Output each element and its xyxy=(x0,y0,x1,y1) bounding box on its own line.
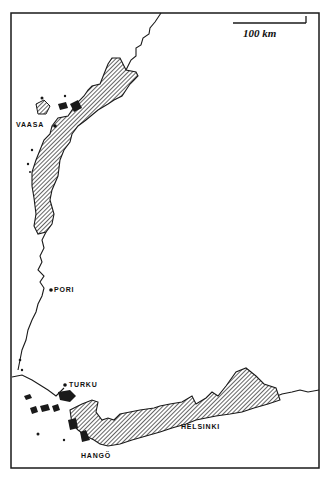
coastline xyxy=(12,13,319,402)
place-label-pori: PORI xyxy=(54,286,74,293)
scale-label: 100 km xyxy=(243,27,276,39)
city-dot-vaasa xyxy=(53,124,57,128)
hatched-region-ostrobothnia xyxy=(32,58,138,234)
place-label-helsinki: HELSINKI xyxy=(181,423,220,430)
hatched-region-south-coast xyxy=(70,368,280,446)
place-label-hango: HANGÖ xyxy=(81,452,111,459)
city-dot-pori xyxy=(49,288,53,292)
place-label-turku: TURKU xyxy=(69,381,98,388)
map-figure xyxy=(0,0,327,483)
scale-bar xyxy=(233,16,306,23)
city-dot-turku xyxy=(63,383,67,387)
place-label-vaasa: VAASA xyxy=(16,121,44,128)
